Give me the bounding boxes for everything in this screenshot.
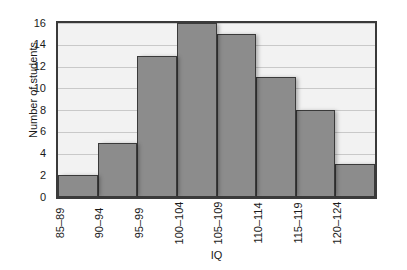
bar[interactable] bbox=[98, 143, 138, 197]
bar[interactable] bbox=[335, 164, 375, 197]
bar-column bbox=[217, 23, 257, 197]
x-axis-tick-slot: 90–94 bbox=[98, 199, 138, 247]
x-axis-tick-slot: 115–119 bbox=[296, 199, 336, 247]
y-axis-tick-label: 12 bbox=[24, 61, 46, 72]
y-axis-tick-label: 2 bbox=[24, 170, 46, 181]
histogram-figure: Number of students 0246810121416 85–8990… bbox=[0, 0, 407, 270]
plot-area bbox=[56, 21, 377, 199]
y-axis-tick-label: 10 bbox=[24, 83, 46, 94]
y-axis-tick-label: 8 bbox=[24, 105, 46, 116]
x-axis-tick-slot: 120–124 bbox=[335, 199, 375, 247]
bar-column bbox=[335, 23, 375, 197]
bar-column bbox=[58, 23, 98, 197]
y-axis-tick-label: 16 bbox=[24, 18, 46, 29]
bar[interactable] bbox=[296, 110, 336, 197]
x-axis-tick-label: 100–104 bbox=[173, 199, 185, 247]
x-axis-tick-label: 110–114 bbox=[252, 199, 264, 247]
bar-column bbox=[98, 23, 138, 197]
x-axis-tick-label: 85–89 bbox=[54, 199, 66, 247]
y-axis-tick-label: 0 bbox=[24, 192, 46, 203]
x-axis-tick-labels: 85–8990–9495–99100–104105–109110–114115–… bbox=[56, 199, 377, 247]
x-axis-tick-slot: 100–104 bbox=[177, 199, 217, 247]
x-axis-tick-slot: 105–109 bbox=[217, 199, 257, 247]
x-axis-title: IQ bbox=[56, 249, 377, 261]
x-axis-tick-label: 105–109 bbox=[212, 199, 224, 247]
plot-inner bbox=[58, 23, 375, 197]
bar-column bbox=[137, 23, 177, 197]
x-axis-tick-slot: 85–89 bbox=[58, 199, 98, 247]
bar[interactable] bbox=[217, 34, 257, 197]
y-axis-tick-label: 6 bbox=[24, 126, 46, 137]
bar[interactable] bbox=[256, 77, 296, 197]
x-axis-tick-label: 95–99 bbox=[133, 199, 145, 247]
x-axis-tick-label: 90–94 bbox=[93, 199, 105, 247]
bar[interactable] bbox=[58, 175, 98, 197]
bar-column bbox=[296, 23, 336, 197]
bar-column bbox=[177, 23, 217, 197]
bar[interactable] bbox=[177, 23, 217, 197]
y-axis-tick-labels: 0246810121416 bbox=[30, 21, 52, 199]
x-axis-tick-slot: 110–114 bbox=[256, 199, 296, 247]
bar-series bbox=[58, 23, 375, 197]
bar[interactable] bbox=[137, 56, 177, 197]
y-axis-tick-label: 4 bbox=[24, 148, 46, 159]
x-axis-tick-label: 120–124 bbox=[331, 199, 343, 247]
bar-column bbox=[256, 23, 296, 197]
y-axis-tick-label: 14 bbox=[24, 39, 46, 50]
x-axis-tick-label: 115–119 bbox=[292, 199, 304, 247]
x-axis-tick-slot: 95–99 bbox=[137, 199, 177, 247]
